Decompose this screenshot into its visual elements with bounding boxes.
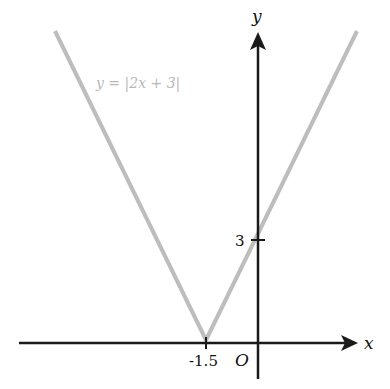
x-intercept-label: -1.5 (189, 352, 218, 370)
equation-label: y = |2x + 3| (95, 75, 180, 92)
origin-label: O (235, 350, 249, 370)
absolute-value-graph: y x O 3 -1.5 y = |2x + 3| (0, 0, 390, 389)
y-axis-label: y (251, 6, 262, 26)
x-axis-label: x (364, 333, 374, 353)
y-intercept-label: 3 (235, 232, 245, 250)
